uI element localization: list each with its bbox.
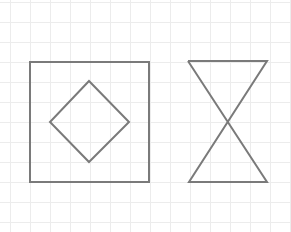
inner-diamond-shape[interactable] [50, 81, 129, 162]
background-grid [0, 0, 291, 232]
diagram-canvas [0, 0, 291, 232]
hourglass-shape[interactable] [188, 61, 267, 182]
